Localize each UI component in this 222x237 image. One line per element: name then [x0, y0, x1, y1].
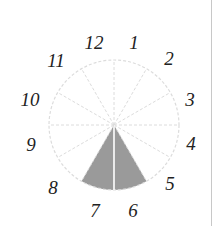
label-7: 7 [90, 200, 101, 221]
label-4: 4 [186, 133, 196, 154]
label-5: 5 [165, 173, 175, 194]
label-8: 8 [48, 177, 58, 198]
spoke-line [82, 69, 115, 125]
clock-wheel [49, 60, 179, 190]
clock-diagram: 12 1 2 3 4 5 6 7 8 9 10 11 [0, 0, 222, 237]
label-1: 1 [129, 32, 139, 53]
label-2: 2 [164, 48, 174, 69]
spoke-line [114, 93, 170, 126]
vertical-divider [211, 0, 212, 226]
label-12: 12 [85, 32, 105, 53]
label-6: 6 [128, 200, 138, 221]
label-9: 9 [26, 134, 36, 155]
label-3: 3 [184, 89, 195, 110]
spoke-line [58, 93, 114, 126]
label-10: 10 [21, 89, 41, 110]
spoke-line [114, 69, 147, 125]
label-11: 11 [47, 50, 65, 71]
